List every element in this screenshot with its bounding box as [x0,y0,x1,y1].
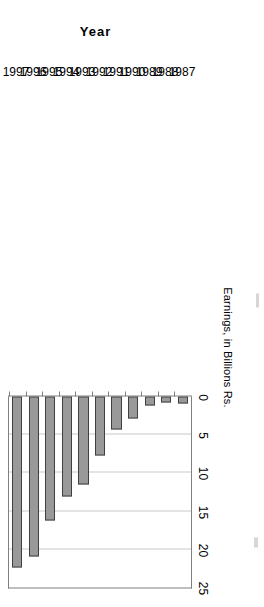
bar [178,396,188,403]
value-axis-title: Earnings, in Billions Rs. [222,87,234,607]
category-axis-tick-label: 1997 [8,55,24,89]
chart-figure-viewport: 0510152025 Earnings, in Billions Rs. 198… [0,0,264,607]
value-axis-tick-label: 15 [196,492,210,532]
bar [62,396,72,496]
bar [145,396,155,405]
bar [111,396,121,429]
value-axis-tick-label: 0 [196,377,210,417]
bar [161,396,171,402]
category-axis-title-text: Year [79,24,110,39]
bar [12,396,22,567]
category-axis-tick-label-text: 1997 [3,65,30,79]
value-axis-tick-label: 20 [196,530,210,570]
bar [128,396,138,418]
plot-area [8,396,192,588]
bar-chart-figure: 0510152025 Earnings, in Billions Rs. 198… [0,0,264,607]
scan-speck [256,293,259,307]
value-axis-tick-label: 5 [196,415,210,455]
scan-speck [254,537,258,547]
bar [29,396,39,556]
value-axis-tick-label: 25 [196,568,210,607]
category-axis-title: Year [0,11,190,51]
bar [95,396,105,455]
value-axis-tick-label: 10 [196,453,210,493]
bar [78,396,88,484]
zero-baseline [8,395,192,396]
bar [45,396,55,520]
